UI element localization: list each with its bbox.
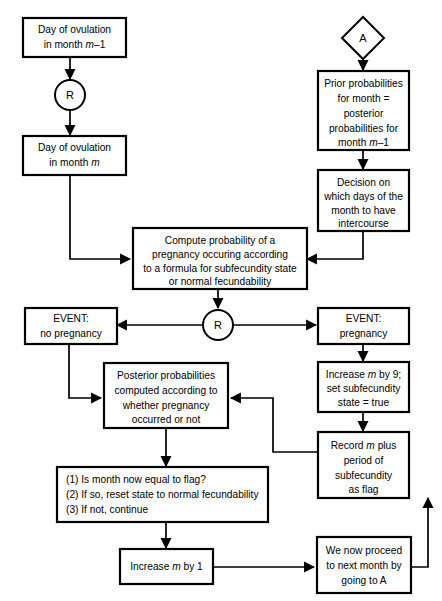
day-ovulation-cur-line1: Day of ovulation (38, 142, 111, 153)
decision-days-line1: Decision on (337, 177, 390, 188)
record-flag-line2: period of (344, 455, 384, 466)
node-connector-a[interactable]: A (342, 17, 384, 59)
proceed-next-month-line1: We now proceed (326, 545, 403, 556)
decision-days-line3: month to have (331, 205, 396, 216)
prior-probabilities-line3: posterior (344, 108, 384, 119)
compute-probability-line4: or normal fecundability (169, 276, 272, 287)
decision-days-line2: which days of the (323, 191, 403, 202)
connector-a-label: A (359, 32, 367, 44)
node-record-flag[interactable]: Record m plus period of subfecundity as … (318, 432, 409, 498)
day-ovulation-cur-line2: in month m (49, 157, 100, 168)
event-pregnancy-line2: pregnancy (340, 328, 388, 339)
node-decision-intercourse-days[interactable]: Decision on which days of the month to h… (318, 170, 409, 231)
edge-proceed-to-record (411, 498, 428, 567)
edge-record-to-posterior (231, 398, 318, 452)
node-proceed-next-month[interactable]: We now proceed to next month by going to… (317, 537, 411, 593)
proceed-next-month-line3: going to A (341, 575, 387, 586)
flowchart-page: Day of ovulation in month m–1 R Day of o… (0, 0, 442, 601)
proceed-next-month-line2: to next month by (326, 560, 402, 571)
compute-probability-line3: to a formula for subfecundity state (143, 263, 297, 274)
day-ovulation-prev-line2: in month m–1 (44, 39, 106, 50)
node-day-ovulation-current-month[interactable]: Day of ovulation in month m (23, 136, 126, 175)
node-increase-m-by-9[interactable]: Increase m by 9; set subfecundity state … (318, 362, 409, 412)
node-prior-probabilities[interactable]: Prior probabilities for month = posterio… (318, 71, 409, 150)
prior-probabilities-line2: for month = (338, 93, 390, 104)
event-no-pregnancy-line1: EVENT: (53, 313, 89, 324)
node-increase-m-by-1[interactable]: Increase m by 1 (120, 549, 213, 584)
posterior-probabilities-line3: whether pregnancy (122, 400, 211, 411)
check-flag-item-3: (3) If not, continue (66, 504, 148, 515)
edge-nopregnancy-to-posterior (69, 343, 101, 398)
prior-probabilities-line4: probabilities for (329, 123, 399, 134)
check-flag-item-1: (1) Is month now equal to flag? (66, 474, 206, 485)
node-posterior-probabilities[interactable]: Posterior probabilities computed accordi… (104, 363, 228, 428)
compute-probability-line2: pregnancy occuring according (152, 249, 288, 260)
prior-probabilities-line1: Prior probabilities (324, 78, 403, 89)
increase-m-by-9-line1: Increase m by 9; (326, 369, 401, 380)
node-connector-r-mid[interactable]: R (203, 310, 233, 340)
increase-m-by-9-line2: set subfecundity (327, 383, 402, 394)
prior-probabilities-line5: month m–1 (338, 137, 389, 148)
check-flag-item-2: (2) If so, reset state to normal fecunda… (66, 489, 259, 500)
decision-days-line4: intercourse (338, 218, 389, 229)
connector-r-top-label: R (66, 89, 74, 101)
flowchart-canvas: Day of ovulation in month m–1 R Day of o… (0, 0, 442, 601)
node-event-no-pregnancy[interactable]: EVENT: no pregnancy (25, 308, 117, 344)
node-event-pregnancy[interactable]: EVENT: pregnancy (318, 308, 409, 344)
edge-ovulcur-to-compute (70, 175, 130, 259)
node-day-ovulation-prev-month[interactable]: Day of ovulation in month m–1 (23, 18, 126, 57)
node-connector-r-top[interactable]: R (55, 80, 85, 110)
record-flag-line4: as flag (348, 484, 378, 495)
day-ovulation-prev-line1: Day of ovulation (38, 24, 111, 35)
compute-probability-line1: Compute probability of a (165, 235, 276, 246)
increase-m-by-9-line3: state = true (338, 397, 390, 408)
increase-m-by-1-line1: Increase m by 1 (130, 561, 203, 572)
node-check-flag-list[interactable]: (1) Is month now equal to flag? (2) If s… (57, 467, 268, 522)
record-flag-line1: Record m plus (331, 440, 397, 451)
node-compute-pregnancy-probability[interactable]: Compute probability of a pregnancy occur… (133, 228, 307, 289)
connector-r-mid-label: R (214, 319, 222, 331)
posterior-probabilities-line4: occurred or not (132, 414, 201, 425)
posterior-probabilities-line2: computed according to (114, 385, 217, 396)
event-pregnancy-line1: EVENT: (346, 313, 382, 324)
posterior-probabilities-line1: Posterior probabilities (117, 370, 215, 381)
record-flag-line3: subfecundity (335, 470, 393, 481)
event-no-pregnancy-line2: no pregnancy (40, 328, 103, 339)
edge-decision-to-compute (307, 231, 363, 259)
